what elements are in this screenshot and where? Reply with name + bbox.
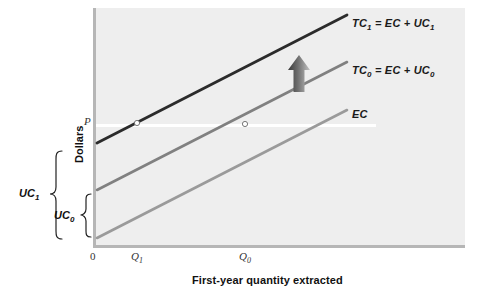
x-tick-origin: 0 bbox=[90, 250, 96, 262]
x-tick-q1: Q1 bbox=[131, 250, 143, 265]
uc0-brace bbox=[81, 194, 92, 237]
uc1-brace bbox=[50, 151, 62, 239]
series-label-tc1: TC1 = EC + UC1 bbox=[352, 17, 435, 32]
intersection-marker-q1 bbox=[134, 120, 139, 125]
intersection-marker-q0 bbox=[242, 121, 247, 126]
economics-figure: TC1 = EC + UC1 TC0 = EC + UC0 EC First-y… bbox=[0, 0, 489, 297]
brace-label-uc0: UC0 bbox=[54, 209, 74, 224]
y-tick-price: P bbox=[84, 115, 91, 127]
ec-curve bbox=[97, 110, 347, 238]
y-axis-title: Dollars bbox=[73, 126, 85, 163]
x-tick-q0: Q0 bbox=[239, 250, 251, 265]
brace-label-uc1: UC1 bbox=[19, 187, 39, 202]
series-label-tc0: TC0 = EC + UC0 bbox=[352, 64, 435, 79]
upward-shift-arrow bbox=[288, 55, 310, 92]
series-label-ec: EC bbox=[352, 108, 368, 120]
x-axis-title: First-year quantity extracted bbox=[192, 274, 343, 286]
